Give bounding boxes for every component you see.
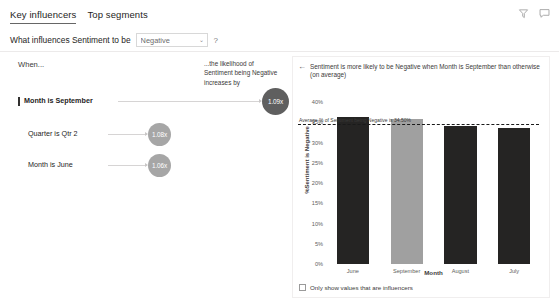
connector-line: [118, 101, 261, 102]
average-reference-label: Average % of Sentiment being Negative is…: [299, 117, 411, 123]
influence-bubble[interactable]: 1.08x: [148, 123, 171, 146]
influence-bubble[interactable]: 1.09x: [262, 88, 289, 115]
tab-top-segments[interactable]: Top segments: [87, 9, 147, 24]
influencer-list-panel: When... ...the likelihood of Sentiment b…: [8, 56, 290, 296]
influencer-row-month-september[interactable]: Month is September 1.09x: [8, 88, 290, 124]
back-arrow-icon[interactable]: ←: [298, 63, 306, 72]
average-reference-line: [298, 124, 539, 125]
key-influencers-visual: Key influencers Top segments What influe…: [0, 0, 559, 308]
influence-bubble-value: 1.08x: [152, 131, 167, 138]
chart-plot-wrapper: %Sentiment is Negative 40%35%30%25%20%15…: [293, 79, 549, 279]
bar-june[interactable]: [337, 117, 369, 264]
visual-tabs: Key influencers Top segments: [10, 9, 148, 24]
y-axis-tick: 0%: [299, 261, 323, 267]
comment-icon[interactable]: [538, 7, 551, 20]
tab-top-segments-label: Top segments: [87, 9, 147, 20]
bar-august[interactable]: [444, 126, 476, 265]
chevron-down-icon: ⌄: [199, 37, 204, 43]
chart-header: ← Sentiment is more likely to be Negativ…: [298, 63, 548, 80]
y-axis-tick: 10%: [299, 221, 323, 227]
influence-bubble-value: 1.09x: [268, 98, 283, 105]
sentiment-value-dropdown[interactable]: Negative ⌄: [136, 33, 208, 47]
connector-line: [108, 165, 147, 166]
chart-title: Sentiment is more likely to be Negative …: [310, 63, 548, 80]
bar-september[interactable]: [391, 119, 423, 264]
x-axis-label: Month: [326, 269, 541, 276]
y-axis-tick: 30%: [299, 140, 323, 146]
influencer-detail-chart-panel: ← Sentiment is more likely to be Negativ…: [292, 56, 550, 298]
only-influencers-checkbox[interactable]: [299, 284, 306, 291]
tab-key-influencers-label: Key influencers: [10, 9, 76, 20]
y-axis-tick: 40%: [299, 99, 323, 105]
y-axis-tick: 20%: [299, 180, 323, 186]
sentiment-value-dropdown-value: Negative: [141, 36, 170, 45]
connector-line: [108, 134, 147, 135]
when-column-header: When...: [18, 60, 44, 69]
y-axis-tick: 15%: [299, 200, 323, 206]
header-divider: [0, 51, 559, 52]
only-influencers-checkbox-label: Only show values that are influencers: [310, 284, 413, 291]
visual-header-icons: [517, 7, 551, 20]
influencer-row-month-june[interactable]: Month is June 1.06x: [8, 152, 290, 188]
tab-key-influencers[interactable]: Key influencers: [10, 9, 76, 24]
help-icon[interactable]: ?: [214, 36, 218, 45]
influencer-label: Month is September: [24, 96, 93, 105]
y-axis-tick: 25%: [299, 160, 323, 166]
bar-july[interactable]: [498, 128, 530, 264]
question-prefix: What influences Sentiment to be: [10, 35, 131, 45]
influence-bubble[interactable]: 1.06x: [148, 154, 171, 177]
influencer-label: Quarter is Qtr 2: [28, 129, 78, 138]
chart-plot-area: Average % of Sentiment being Negative is…: [326, 102, 541, 264]
filter-icon[interactable]: [517, 7, 530, 20]
y-axis-tick: 5%: [299, 241, 323, 247]
influencer-label: Month is June: [28, 160, 73, 169]
likelihood-column-header: ...the likelihood of Sentiment being Neg…: [204, 59, 282, 87]
only-influencers-checkbox-row[interactable]: Only show values that are influencers: [299, 284, 413, 291]
influence-bubble-value: 1.06x: [152, 162, 167, 169]
selected-indicator-bar: [18, 97, 20, 106]
question-row: What influences Sentiment to be Negative…: [10, 33, 218, 47]
